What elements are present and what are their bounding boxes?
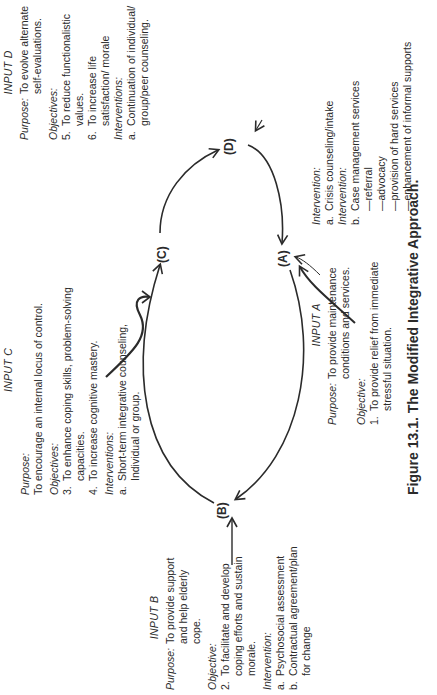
input-a-purpose: To provide maintenance conditions and se… <box>326 225 352 379</box>
input-d-purpose-label: Purpose: <box>18 98 44 140</box>
service-referral: —referral <box>362 25 375 225</box>
input-c-interventions-label: Interventions: <box>103 245 116 495</box>
service-hard-services: —provision of hard services <box>388 25 401 225</box>
input-b-objective-2: 2.To facilitate and develop coping effor… <box>219 545 258 690</box>
arrow-c-to-d <box>160 150 218 233</box>
input-a-purpose-label: Purpose: <box>326 383 352 425</box>
input-c-block: INPUT C Purpose: To encourage an interna… <box>2 245 142 495</box>
input-c-objective-4: 4.To increase cognitive mastery. <box>87 245 100 495</box>
input-d-purpose-row: Purpose: To evolve alternate self-evalua… <box>18 5 44 140</box>
arrow-d-to-a <box>248 145 283 243</box>
input-b-intervention-b: b.Contractual agreement/plan for change <box>287 545 313 690</box>
input-c-intervention-a: a.Short-term integrative counseling, Ind… <box>116 305 142 495</box>
figure-page: (B) (C) (D) (A) INPUT C Purpose: To enco… <box>0 0 437 695</box>
node-d: (D) <box>222 138 236 155</box>
input-a-intervention-label-1: Intervention: <box>310 25 323 225</box>
arrow-b-to-c <box>143 265 214 503</box>
input-b-title: INPUT B <box>148 545 161 690</box>
input-a-interventions-block: Intervention: a.Crisis counseling/intake… <box>310 25 414 225</box>
input-d-title: INPUT D <box>2 5 15 140</box>
input-a-objective-label: Objective: <box>355 225 368 425</box>
input-a-intervention-b: b.Case management services <box>349 25 362 225</box>
node-b: (B) <box>215 502 229 519</box>
input-c-objectives-label: Objectives: <box>48 245 61 495</box>
input-d-intervention-a: a.Continuation of individual/ group/peer… <box>125 5 151 140</box>
input-d-interventions-label: Interventions: <box>112 5 125 140</box>
input-d-objective-5: 5.To reduce functionalistic values. <box>60 5 86 140</box>
service-advocacy: —advocacy <box>375 25 388 225</box>
input-a-objective-1: 1.To provide relief from immediate stres… <box>368 225 394 425</box>
input-d-purpose: To evolve alternate self-evaluations. <box>18 5 44 94</box>
node-c: (C) <box>155 246 169 263</box>
input-d-block: INPUT D Purpose: To evolve alternate sel… <box>2 5 151 140</box>
pointer-input-d <box>256 120 262 130</box>
input-c-purpose-label: Purpose: <box>19 245 32 495</box>
input-c-objective-3: 3.To enhance coping skills, problem-solv… <box>61 245 87 495</box>
node-a: (A) <box>276 250 290 267</box>
input-b-objective-label: Objective: <box>206 545 219 690</box>
input-b-intervention-a: a.Psychosocial assessment <box>274 545 287 690</box>
arrow-a-to-b <box>236 270 304 499</box>
input-d-objective-6: 6.To increase life satisfaction/ morale <box>86 5 112 140</box>
input-a-intervention-label-2: Intervention: <box>336 25 349 225</box>
input-c-purpose: To encourage an internal locus of contro… <box>32 245 45 495</box>
input-b-intervention-label: Intervention: <box>261 545 274 690</box>
input-b-purpose-row: Purpose: To provide support and help eld… <box>164 545 203 690</box>
input-a-block: INPUT A Purpose: To provide maintenance … <box>310 225 394 425</box>
input-b-purpose: To provide support and help elderly cope… <box>164 545 203 644</box>
input-a-intervention-a: a.Crisis counseling/intake <box>323 25 336 225</box>
input-a-title: INPUT A <box>310 225 323 425</box>
figure-caption: Figure 13.1. The Modified Integrative Ap… <box>405 180 421 495</box>
input-b-block: INPUT B Purpose: To provide support and … <box>148 545 313 690</box>
input-d-objectives-label: Objectives: <box>47 5 60 140</box>
input-b-purpose-label: Purpose: <box>164 648 203 690</box>
input-c-title: INPUT C <box>2 245 15 495</box>
input-a-purpose-row: Purpose: To provide maintenance conditio… <box>326 225 352 425</box>
